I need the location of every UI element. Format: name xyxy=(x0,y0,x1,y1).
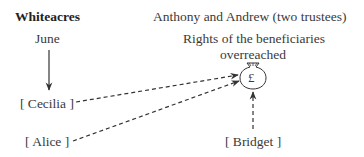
dashed-arrow-icon xyxy=(76,75,238,102)
pound-symbol: £ xyxy=(248,70,255,85)
arrows-layer xyxy=(0,0,364,157)
dashed-arrow-icon xyxy=(73,81,239,141)
